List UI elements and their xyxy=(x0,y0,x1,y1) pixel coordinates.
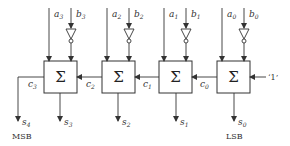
svg-text:b0: b0 xyxy=(249,9,259,20)
inverter-icon xyxy=(239,29,249,39)
svg-text:Σ: Σ xyxy=(170,68,181,86)
svg-text:a3: a3 xyxy=(54,9,63,20)
svg-text:b1: b1 xyxy=(191,9,201,20)
svg-text:Σ: Σ xyxy=(113,68,124,86)
svg-text:‘1’: ‘1’ xyxy=(268,73,278,82)
svg-text:Σ: Σ xyxy=(55,68,66,86)
adder-diagram: Σ a3 b3 s3 c3 Σ a2 b2 s2 c2 Σ a1 b1 s1 xyxy=(0,0,290,146)
svg-text:s3: s3 xyxy=(64,117,73,128)
adder-stage-2: Σ a2 b2 s2 c2 xyxy=(77,8,144,128)
svg-text:c3: c3 xyxy=(28,79,37,90)
msb-output-label: s4 xyxy=(22,117,31,128)
svg-text:c2: c2 xyxy=(86,79,95,90)
svg-text:a0: a0 xyxy=(227,9,236,20)
inverter-icon xyxy=(181,29,191,39)
svg-text:a2: a2 xyxy=(112,9,121,20)
svg-text:b3: b3 xyxy=(76,9,86,20)
svg-text:s2: s2 xyxy=(122,117,131,128)
svg-text:a1: a1 xyxy=(169,9,178,20)
lsb-label: LSB xyxy=(226,132,243,141)
svg-text:Σ: Σ xyxy=(228,68,239,86)
adder-stage-0: Σ a0 b0 s0 c0 ‘1’ xyxy=(192,8,278,128)
adder-stage-1: Σ a1 b1 s1 c1 xyxy=(135,8,201,128)
svg-text:b2: b2 xyxy=(134,9,144,20)
adder-stage-3: Σ a3 b3 s3 c3 xyxy=(18,8,86,128)
svg-text:c1: c1 xyxy=(143,79,152,90)
svg-text:s1: s1 xyxy=(180,117,188,128)
inverter-icon xyxy=(124,29,134,39)
msb-label: MSB xyxy=(12,132,32,141)
inverter-icon xyxy=(66,29,76,39)
svg-text:s0: s0 xyxy=(238,117,247,128)
svg-text:c0: c0 xyxy=(200,79,209,90)
